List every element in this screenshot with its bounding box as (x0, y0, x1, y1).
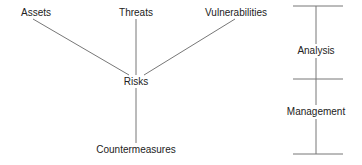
node-countermeasures: Countermeasures (96, 144, 175, 156)
edge-assets-risks (33, 19, 129, 75)
diagram-lines (0, 0, 362, 165)
node-assets: Assets (21, 7, 51, 19)
node-vulnerabilities: Vulnerabilities (205, 7, 267, 19)
edge-vulnerabilities-risks (144, 19, 235, 75)
node-threats: Threats (119, 7, 153, 19)
phase-analysis: Analysis (296, 44, 335, 58)
node-risks: Risks (123, 76, 149, 88)
phase-management: Management (286, 105, 346, 119)
